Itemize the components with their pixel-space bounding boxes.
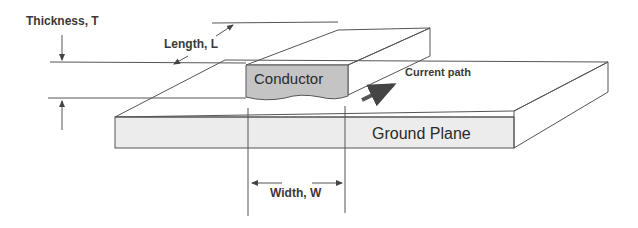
ground-plane (115, 60, 608, 148)
microstrip-diagram: Conductor Current path Thickness, T Leng… (0, 0, 638, 228)
thickness-label: Thickness, T (26, 14, 99, 28)
conductor: Conductor (246, 28, 430, 100)
conductor-label: Conductor (254, 70, 323, 87)
current-path-arrow-icon (362, 85, 393, 100)
conductor-top (246, 28, 430, 65)
length-label: Length, L (164, 37, 218, 51)
thickness-dimension: Thickness, T (26, 14, 246, 130)
ground-plane-side (514, 62, 608, 148)
width-label: Width, W (270, 186, 322, 200)
ground-plane-label: Ground Plane (372, 125, 471, 142)
current-path-label: Current path (405, 66, 471, 78)
length-dimension: Length, L (164, 22, 338, 64)
